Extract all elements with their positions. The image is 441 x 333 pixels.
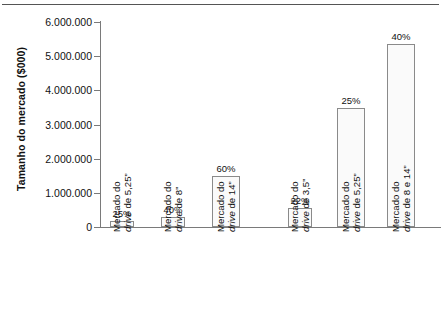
category-label-line-2: drive de 3,5” [300,179,311,232]
y-axis-tick-label: 1.000.000 [6,187,92,199]
top-divider-rule [2,4,439,5]
category-label-size: de 8” [173,187,184,212]
category-label-line-2: drive de 8” [173,181,184,232]
category-label-line-1: Mercado do [390,165,401,232]
y-axis-tick-label: 0 [6,221,92,233]
x-axis-category-label: Mercado dodrive de 14” [215,181,238,232]
y-axis-tick-label: 3.000.000 [6,119,92,131]
category-label-size: de 5,25” [351,173,362,211]
category-label-drive-emphasis: drive [122,211,133,232]
category-label-drive-emphasis: drive [173,211,184,232]
category-label-line-1: Mercado do [215,181,226,232]
category-label-line-2: drive de 5,25” [351,173,362,232]
category-label-size: de 3,5” [300,179,311,212]
x-axis-category-label: Mercado dodrive de 3,5” [289,179,312,232]
bar-chart: Tamanho do mercado ($000) 01.000.0002.00… [0,0,441,333]
category-label-line-2: drive de 5,25” [122,173,133,232]
category-label-line-1: Mercado do [289,179,300,232]
bar-value-label: 25% [341,95,360,106]
category-label-drive-emphasis: drive [351,211,362,232]
category-label-size: de 8 e 14” [401,165,412,211]
y-axis-tick-label: 2.000.000 [6,153,92,165]
bar-value-label: 60% [216,163,235,174]
bar-value-label: 40% [391,31,410,42]
x-axis-category-label: Mercado dodrive de 5,25” [111,173,134,232]
x-axis-category-label: Mercado dodrive de 8 e 14” [390,165,413,232]
category-label-line-1: Mercado do [111,173,122,232]
x-axis-category-label: Mercado dodrive de 8” [162,181,185,232]
category-label-drive-emphasis: drive [401,211,412,232]
category-label-drive-emphasis: drive [226,211,237,232]
category-label-line-1: Mercado do [162,181,173,232]
y-axis-line [100,21,101,228]
y-axis-tick-label: 6.000.000 [6,16,92,28]
y-axis-tick-label: 4.000.000 [6,84,92,96]
category-label-line-2: drive de 8 e 14” [401,165,412,232]
category-label-line-1: Mercado do [340,173,351,232]
y-axis-tick-label: 5.000.000 [6,50,92,62]
category-label-line-2: drive de 14” [226,181,237,232]
category-label-size: de 14” [226,181,237,211]
category-label-drive-emphasis: drive [300,211,311,232]
x-axis-category-label: Mercado dodrive de 5,25” [340,173,363,232]
category-label-size: de 5,25” [122,173,133,211]
